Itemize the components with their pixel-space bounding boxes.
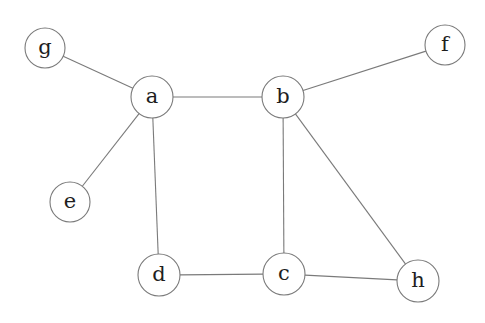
node-b: b — [262, 76, 304, 118]
node-f: f — [425, 25, 465, 65]
graph-diagram: gabfedch — [0, 0, 485, 323]
edge-a-e — [82, 114, 139, 187]
node-layer: gabfedch — [25, 25, 465, 302]
graph-canvas: gabfedch — [0, 0, 485, 323]
edge-layer — [63, 51, 426, 280]
node-label: c — [278, 261, 290, 285]
node-d: d — [138, 254, 180, 296]
edge-b-h — [295, 114, 405, 264]
node-label: g — [38, 35, 51, 59]
node-label: d — [152, 262, 165, 286]
node-label: e — [64, 189, 76, 213]
node-label: a — [146, 84, 159, 108]
edge-b-f — [303, 51, 426, 90]
node-label: h — [411, 268, 425, 292]
edge-d-c — [180, 274, 263, 275]
edge-b-c — [283, 118, 284, 253]
node-e: e — [50, 182, 90, 222]
node-c: c — [263, 253, 305, 295]
node-h: h — [397, 260, 439, 302]
node-g: g — [25, 28, 65, 68]
edge-a-d — [153, 118, 158, 254]
edge-c-h — [305, 275, 397, 280]
node-a: a — [131, 76, 173, 118]
edge-g-a — [63, 56, 133, 88]
node-label: b — [276, 84, 289, 108]
